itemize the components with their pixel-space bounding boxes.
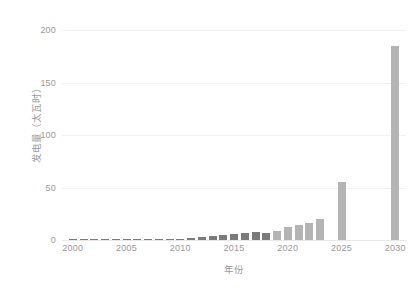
bar: [230, 234, 238, 240]
bar: [391, 46, 399, 240]
bar: [198, 237, 206, 240]
x-tick-label: 2005: [116, 243, 137, 253]
bar: [295, 225, 303, 240]
plot-area: [62, 30, 406, 240]
gridline: [62, 240, 406, 241]
bar: [262, 233, 270, 240]
bar: [219, 235, 227, 240]
bar: [284, 227, 292, 240]
bar: [273, 231, 281, 240]
y-tick-label: 0: [14, 235, 56, 245]
gridline: [62, 135, 406, 136]
bar: [209, 236, 217, 240]
bar: [69, 239, 77, 240]
bar: [176, 239, 184, 240]
bar: [252, 232, 260, 240]
x-tick-label: 2015: [224, 243, 245, 253]
bar: [166, 239, 174, 240]
bar: [123, 239, 131, 240]
bar: [338, 182, 346, 240]
x-axis-title: 年份: [62, 262, 406, 276]
bar: [305, 223, 313, 240]
x-axis-tick-labels: 2000200520102015202020252030: [62, 243, 406, 259]
bar: [133, 239, 141, 240]
bar: [90, 239, 98, 240]
gridline: [62, 188, 406, 189]
x-tick-label: 2030: [385, 243, 406, 253]
bar: [316, 219, 324, 240]
x-tick-label: 2010: [170, 243, 191, 253]
bar: [80, 239, 88, 240]
x-tick-label: 2000: [62, 243, 83, 253]
gridline: [62, 30, 406, 31]
bar: [101, 239, 109, 240]
bar: [144, 239, 152, 240]
chart-container: 发电量（太瓦时） 050100150200 200020052010201520…: [0, 0, 416, 296]
x-tick-label: 2025: [331, 243, 352, 253]
bar: [112, 239, 120, 240]
bar: [155, 239, 163, 240]
bar: [187, 238, 195, 240]
x-tick-label: 2020: [277, 243, 298, 253]
gridline: [62, 83, 406, 84]
y-axis-title: 发电量（太瓦时）: [26, 18, 48, 228]
bar: [241, 233, 249, 240]
